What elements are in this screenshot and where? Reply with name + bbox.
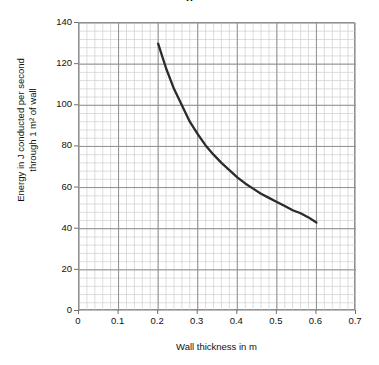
x-axis-title: Wall thickness in m [78,341,355,352]
x-tick-label: 0.5 [261,316,291,326]
minor-gridlines [79,23,356,311]
major-gridlines [79,23,356,311]
y-tick-label: 0 [38,305,72,315]
x-tick-label: 0.6 [300,316,330,326]
y-tick-label: 20 [38,264,72,274]
chart-title-fragment: g [0,0,379,1]
y-tick-label: 140 [38,17,72,27]
grid-and-curve [79,23,356,311]
y-tick-label: 60 [38,182,72,192]
plot-area [78,22,355,310]
x-tick-label: 0 [63,316,93,326]
x-tick-label: 0.7 [340,316,370,326]
x-tick-label: 0.3 [182,316,212,326]
y-axis-title-line1: Energy in J conducted per second [15,58,26,202]
y-tick-label: 40 [38,223,72,233]
y-axis-title: Energy in J conducted per second through… [15,15,39,245]
x-tick-label: 0.1 [103,316,133,326]
chart-figure: g Energy in J conducted per second throu… [0,0,379,365]
y-tick-label: 100 [38,99,72,109]
y-tick-label: 120 [38,58,72,68]
y-axis-title-line2: through 1 m² of wall [27,88,38,171]
y-tick-label: 80 [38,140,72,150]
x-tick-label: 0.4 [221,316,251,326]
x-tick-label: 0.2 [142,316,172,326]
